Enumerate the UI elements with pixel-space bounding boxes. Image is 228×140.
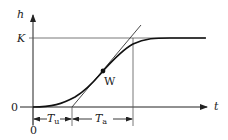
inflection-point: [101, 69, 106, 74]
step-response-diagram: h K 0 t 0 W Tu Ta: [0, 0, 228, 140]
response-curve: [33, 38, 206, 107]
y-axis-label: h: [17, 8, 24, 21]
x-axis-label: t: [214, 100, 219, 113]
ta-label: Ta: [95, 112, 107, 126]
tu-label: Tu: [47, 112, 60, 126]
origin-y-label: 0: [11, 101, 18, 114]
inflection-label: W: [104, 75, 116, 88]
origin-x-label: 0: [30, 124, 37, 137]
k-label: K: [16, 32, 26, 45]
